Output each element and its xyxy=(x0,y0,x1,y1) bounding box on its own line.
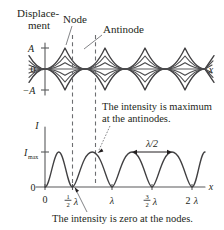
label-intensity-max-subscript: max xyxy=(28,154,38,160)
label-node: Node xyxy=(63,13,87,25)
label-x-axis-bottom: x xyxy=(208,181,214,192)
displacement-panel: A 0 −A x Displace- ment xyxy=(17,7,214,96)
label-amplitude-positive: A xyxy=(27,43,35,54)
caption-max-arrowhead xyxy=(98,149,104,153)
label-antinode: Antinode xyxy=(103,23,144,35)
label-displacement-title-line2: ment xyxy=(28,19,50,31)
half-wavelength-arrow-right xyxy=(167,150,172,155)
intensity-curve xyxy=(45,152,205,187)
node-callout: Node xyxy=(63,13,87,45)
label-displacement-zero: 0 xyxy=(31,64,36,75)
frac-half-denominator: 2 xyxy=(66,201,69,208)
antinode-leader-line xyxy=(84,35,102,49)
frac-threehalf-lambda: λ xyxy=(152,196,158,207)
frac-half-numerator: 1 xyxy=(66,193,69,200)
antinode-callout: Antinode xyxy=(84,23,144,49)
intensity-panel: I I max 0 x 0 1 2 λ λ 3 2 λ xyxy=(23,120,214,208)
label-tick-lambda: λ xyxy=(109,195,115,206)
label-tick-half-lambda: 1 2 λ xyxy=(65,193,79,208)
figure-canvas: A 0 −A x Displace- ment Node Antinode xyxy=(0,0,224,230)
label-tick-two: 2 xyxy=(186,195,191,206)
label-tick-two-lambda-symbol: λ xyxy=(193,195,199,206)
half-wavelength-arrow-left xyxy=(132,150,137,155)
label-intensity-max: I max xyxy=(23,147,38,160)
label-intensity-zero: 0 xyxy=(31,182,36,193)
frac-threehalf-denominator: 2 xyxy=(145,201,148,208)
label-x-axis-top: x xyxy=(208,64,214,75)
node-leader-line xyxy=(66,26,72,45)
caption-zero-arrowhead xyxy=(75,187,80,193)
label-tick-three-half-lambda: 3 2 λ xyxy=(144,193,158,208)
half-wavelength-annotation: λ/2 xyxy=(132,138,172,154)
label-tick-two-lambda: 2 λ xyxy=(186,195,199,206)
label-displacement-title-line1: Displace- xyxy=(17,7,59,19)
caption-max-leader-line xyxy=(99,126,110,150)
caption-max-line1: The intensity is maximum xyxy=(102,101,212,112)
caption-zero-text: The intensity is zero at the nodes. xyxy=(52,213,193,224)
frac-half-lambda: λ xyxy=(73,196,79,207)
label-amplitude-negative: −A xyxy=(23,85,37,96)
label-tick-0: 0 xyxy=(43,194,48,205)
frac-threehalf-numerator: 3 xyxy=(145,193,148,200)
standing-wave-intensity-figure: A 0 −A x Displace- ment Node Antinode xyxy=(0,0,224,230)
caption-max-line2: at the antinodes. xyxy=(102,113,171,124)
label-half-wavelength: λ/2 xyxy=(145,138,158,149)
label-intensity-symbol: I xyxy=(34,120,39,131)
